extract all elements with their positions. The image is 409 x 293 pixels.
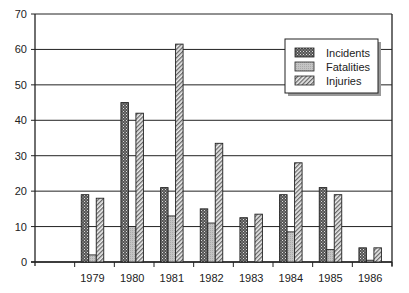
x-tick-label: 1983: [239, 272, 263, 284]
legend-swatch-incidents: [295, 48, 314, 57]
bar-incidents: [161, 188, 169, 262]
bar-injuries: [96, 198, 104, 262]
bar-fatalities: [327, 250, 335, 262]
y-tick-label: 0: [21, 256, 27, 268]
x-tick-label: 1980: [120, 272, 144, 284]
bar-incidents: [280, 195, 288, 262]
bar-chart: 010203040506070 197919801981198219831984…: [0, 0, 409, 293]
x-tick-label: 1981: [160, 272, 184, 284]
x-tick-label: 1979: [80, 272, 104, 284]
bar-injuries: [176, 44, 184, 262]
x-axis-labels: 19791980198119821983198419851986: [80, 272, 382, 284]
legend-label-injuries: Injuries: [326, 75, 362, 87]
bar-incidents: [81, 195, 89, 262]
y-tick-label: 30: [15, 150, 27, 162]
x-tick-label: 1986: [358, 272, 382, 284]
legend: IncidentsFatalitiesInjuries: [285, 39, 381, 96]
x-tick-label: 1982: [199, 272, 223, 284]
y-tick-label: 50: [15, 79, 27, 91]
y-tick-label: 10: [15, 221, 27, 233]
legend-swatch-fatalities: [295, 62, 314, 71]
bar-injuries: [255, 214, 263, 262]
bar-fatalities: [208, 223, 216, 262]
bar-injuries: [215, 143, 223, 262]
bar-fatalities: [128, 227, 136, 262]
bar-injuries: [295, 163, 303, 262]
legend-label-fatalities: Fatalities: [326, 61, 371, 73]
bar-incidents: [240, 218, 248, 262]
legend-label-incidents: Incidents: [326, 47, 371, 59]
bar-injuries: [136, 113, 144, 262]
bar-injuries: [334, 195, 342, 262]
bar-fatalities: [89, 255, 97, 262]
y-tick-label: 60: [15, 43, 27, 55]
bar-incidents: [319, 188, 327, 262]
bar-incidents: [121, 103, 128, 262]
y-tick-label: 40: [15, 114, 27, 126]
x-tick-label: 1984: [279, 272, 303, 284]
bar-fatalities: [287, 232, 295, 262]
bar-incidents: [359, 248, 367, 262]
bar-incidents: [200, 209, 208, 262]
bar-fatalities: [168, 216, 176, 262]
legend-swatch-injuries: [295, 76, 314, 85]
bar-injuries: [374, 248, 382, 262]
bar-fatalities: [366, 260, 374, 262]
y-tick-label: 20: [15, 185, 27, 197]
y-tick-label: 70: [15, 8, 27, 20]
x-tick-label: 1985: [318, 272, 342, 284]
